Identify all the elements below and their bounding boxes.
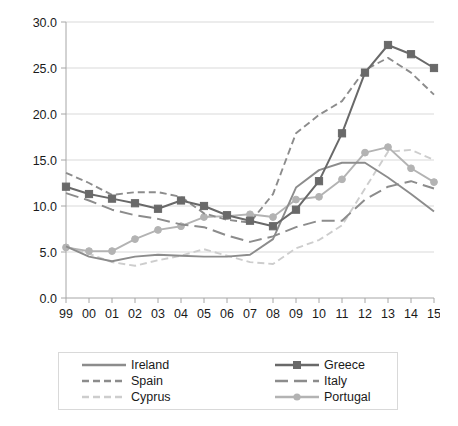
marker-circle-portugal <box>408 165 415 172</box>
marker-circle-portugal <box>132 236 139 243</box>
marker-square-greece <box>200 202 207 209</box>
legend-swatch-greece <box>274 359 320 371</box>
legend-label-greece: Greece <box>324 359 365 372</box>
marker-circle-portugal <box>431 179 438 186</box>
marker-square-greece <box>154 205 161 212</box>
legend-item-ireland: Ireland <box>59 359 228 372</box>
marker-square-greece <box>338 130 345 137</box>
marker-circle-portugal <box>316 193 323 200</box>
legend-swatch-cyprus <box>81 391 127 403</box>
x-tick-label: 11 <box>336 307 349 321</box>
x-tick-label: 08 <box>266 307 280 321</box>
series-line-spain <box>66 58 434 223</box>
x-tick-label: 13 <box>381 307 395 321</box>
x-tick-label: 01 <box>105 307 119 321</box>
series-line-portugal <box>66 147 434 251</box>
marker-square-greece <box>407 51 414 58</box>
marker-circle-portugal <box>155 227 162 234</box>
legend-label-spain: Spain <box>131 375 163 388</box>
legend-item-italy: Italy <box>228 375 397 388</box>
x-tick-label: 14 <box>404 307 418 321</box>
x-tick-label: 06 <box>220 307 234 321</box>
legend-label-ireland: Ireland <box>131 359 169 372</box>
x-tick-label: 10 <box>312 307 326 321</box>
marker-circle-portugal <box>109 248 116 255</box>
y-tick-label: 20.0 <box>33 108 57 122</box>
legend-item-greece: Greece <box>228 359 397 372</box>
legend-label-cyprus: Cyprus <box>131 391 171 404</box>
series-line-greece <box>66 45 434 226</box>
marker-square-greece <box>62 183 69 190</box>
marker-square-greece <box>131 200 138 207</box>
legend-item-portugal: Portugal <box>228 391 397 404</box>
x-tick-label: 02 <box>128 307 142 321</box>
legend-swatch-spain <box>81 375 127 387</box>
marker-circle-portugal <box>201 214 208 221</box>
x-tick-label: 05 <box>197 307 211 321</box>
legend-label-portugal: Portugal <box>324 391 371 404</box>
y-tick-label: 10.0 <box>33 200 57 214</box>
x-tick-label: 99 <box>59 307 73 321</box>
chart-legend: Ireland Greece Spain Italy <box>58 352 398 410</box>
legend-swatch-ireland <box>81 359 127 371</box>
x-tick-label: 03 <box>151 307 165 321</box>
line-chart: 0.05.010.015.020.025.030.099000102030405… <box>18 8 440 338</box>
legend-grid: Ireland Greece Spain Italy <box>59 353 397 409</box>
marker-circle-portugal <box>293 196 300 203</box>
marker-square-greece <box>85 190 92 197</box>
y-tick-label: 5.0 <box>40 246 57 260</box>
marker-square-greece <box>384 41 391 48</box>
x-tick-label: 12 <box>358 307 372 321</box>
marker-circle-portugal <box>339 176 346 183</box>
x-tick-label: 00 <box>82 307 96 321</box>
y-tick-label: 0.0 <box>40 292 57 306</box>
x-tick-label: 09 <box>289 307 303 321</box>
series-line-cyprus <box>66 150 434 266</box>
legend-marker-square <box>293 361 301 369</box>
legend-item-cyprus: Cyprus <box>59 391 228 404</box>
legend-marker-circle <box>293 393 300 400</box>
marker-square-greece <box>269 223 276 230</box>
marker-circle-portugal <box>270 214 277 221</box>
marker-square-greece <box>361 69 368 76</box>
marker-circle-portugal <box>385 144 392 151</box>
marker-square-greece <box>246 217 253 224</box>
marker-square-greece <box>223 212 230 219</box>
legend-swatch-portugal <box>274 391 320 403</box>
marker-circle-portugal <box>86 248 93 255</box>
y-tick-label: 25.0 <box>33 62 57 76</box>
marker-square-greece <box>315 178 322 185</box>
legend-label-italy: Italy <box>324 375 347 388</box>
marker-square-greece <box>177 197 184 204</box>
marker-square-greece <box>430 64 437 71</box>
chart-root: 0.05.010.015.020.025.030.099000102030405… <box>0 0 458 426</box>
marker-square-greece <box>108 195 115 202</box>
x-tick-label: 04 <box>174 307 188 321</box>
x-tick-label: 07 <box>243 307 257 321</box>
chart-canvas: 0.05.010.015.020.025.030.099000102030405… <box>18 8 440 338</box>
y-tick-label: 30.0 <box>33 16 57 30</box>
marker-circle-portugal <box>362 149 369 156</box>
legend-item-spain: Spain <box>59 375 228 388</box>
y-tick-label: 15.0 <box>33 154 57 168</box>
legend-swatch-italy <box>274 375 320 387</box>
marker-square-greece <box>292 206 299 213</box>
x-tick-label: 15 <box>427 307 440 321</box>
